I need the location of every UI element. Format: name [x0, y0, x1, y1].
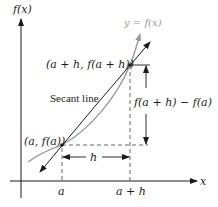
curve-label: y = f(x): [123, 17, 162, 28]
vertical-difference-label: f(a + h) − f(a): [133, 96, 212, 109]
x-tick-a-plus-h: a + h: [116, 185, 146, 198]
y-axis-label: f(x): [12, 3, 32, 16]
x-tick-a: a: [58, 185, 65, 198]
h-label: h: [90, 151, 97, 164]
secant-label: Secant line: [50, 92, 99, 104]
x-axis-label: x: [200, 175, 207, 188]
secant-line-diagram: f(x) x y = f(x) (a + h, f(a + h)) Secant…: [0, 0, 218, 207]
point-a-label: (a, f(a)): [24, 135, 65, 148]
point-a-plus-h-label: (a + h, f(a + h)): [46, 58, 134, 71]
